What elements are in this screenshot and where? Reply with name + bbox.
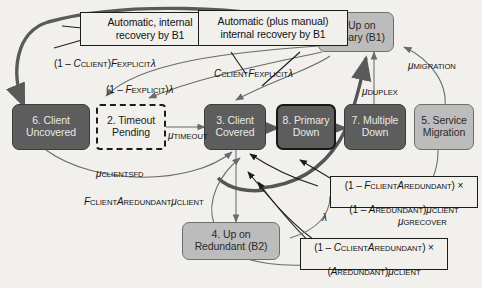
callout-automatic-plus-manual-recovery: Automatic (plus manual) internal recover… (198, 10, 348, 46)
state-3-client-covered[interactable]: 3. Client Covered (204, 104, 266, 150)
state-6-client-uncovered[interactable]: 6. Client Uncovered (12, 104, 90, 150)
formula-fclient-line1: (1 – FCLIENTAREDUNDANT) × (1 – AREDUNDAN… (345, 168, 463, 216)
state-2-timeout-pending[interactable]: 2. Timeout Pending (96, 104, 166, 150)
formula-cclient-line1: (1 – CCLIENTAREDUNDANT) × (AREDUNDANT)μC… (314, 230, 434, 278)
edge-label-one-minus-cclient-fexplicit-lambda: (1 – CCLIENT)FEXPLICITλ (54, 58, 156, 69)
edge-label-mu-timeout: μTIMEOUT (168, 130, 208, 141)
state-7-multiple-down[interactable]: 7. Multiple Down (344, 104, 406, 150)
state-4-up-on-redundant[interactable]: 4. Up on Redundant (B2) (182, 222, 280, 260)
diagram-canvas: Automatic, internal recovery by B1 Autom… (0, 0, 482, 288)
edge-label-mu-duplex: μDUPLEX (362, 86, 398, 97)
edge-label-mu-clientsfd: μCLIENTSFD (96, 168, 144, 179)
edge-label-lambda: λ (322, 212, 327, 223)
formula-box-fclient-aredundant: (1 – FCLIENTAREDUNDANT) × (1 – AREDUNDAN… (330, 176, 478, 208)
state-8-primary-down[interactable]: 8. Primary Down (276, 104, 336, 150)
state-5-service-migration[interactable]: 5. Service Migration (414, 104, 474, 150)
edge-label-mu-migration: μMIGRATION (408, 60, 456, 71)
edge-label-fclient-aredundant-muclient: FCLIENTAREDUNDANTμCLIENT (84, 196, 204, 207)
edge-label-one-minus-fexplicit-lambda: (1 – FEXPLICIT)λ (106, 84, 173, 95)
edge-label-mu-grecover: μGRECOVER (398, 216, 447, 227)
edge-label-cclient-fexplicit-lambda: CCLIENTFEXPLICITλ (214, 68, 293, 79)
formula-box-cclient-aredundant: (1 – CCLIENTAREDUNDANT) × (AREDUNDANT)μC… (300, 238, 448, 270)
